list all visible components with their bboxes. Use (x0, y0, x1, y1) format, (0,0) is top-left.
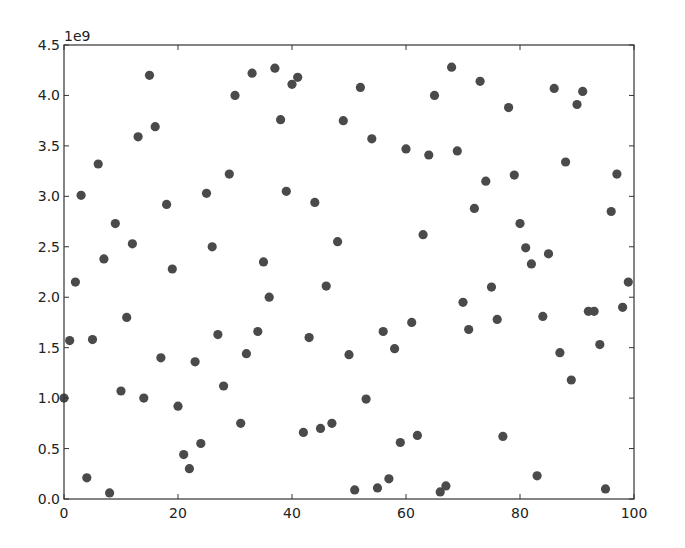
data-point (567, 375, 576, 384)
data-point (282, 187, 291, 196)
data-point (259, 257, 268, 266)
data-point (379, 327, 388, 336)
data-point (618, 303, 627, 312)
y-tick-label: 4.0 (38, 87, 60, 103)
x-tick-label: 40 (283, 505, 301, 521)
data-point (356, 83, 365, 92)
y-tick-label: 2.5 (38, 239, 60, 255)
data-point (151, 122, 160, 131)
data-point (225, 170, 234, 179)
data-point (139, 394, 148, 403)
data-point (510, 171, 519, 180)
data-point (191, 357, 200, 366)
data-point (527, 259, 536, 268)
data-point (116, 386, 125, 395)
data-point (339, 116, 348, 125)
data-point (607, 207, 616, 216)
data-point (504, 103, 513, 112)
data-point (88, 335, 97, 344)
data-point (236, 419, 245, 428)
data-point (413, 431, 422, 440)
data-point (185, 464, 194, 473)
data-point (202, 189, 211, 198)
y-tick-label: 4.5 (38, 37, 60, 53)
x-axis-ticks: 020406080100 (60, 45, 648, 521)
data-point (544, 249, 553, 258)
y-tick-label: 2.0 (38, 289, 60, 305)
data-point (253, 327, 262, 336)
data-point (179, 450, 188, 459)
data-point (441, 481, 450, 490)
data-point (595, 340, 604, 349)
data-point (453, 146, 462, 155)
data-point (624, 278, 633, 287)
data-point (145, 71, 154, 80)
data-point (327, 419, 336, 428)
data-point (419, 230, 428, 239)
data-point (322, 282, 331, 291)
data-point (82, 473, 91, 482)
y-axis-ticks: 0.00.51.01.52.02.53.03.54.04.5 (38, 37, 634, 507)
data-point (538, 312, 547, 321)
data-point (601, 484, 610, 493)
data-point (173, 402, 182, 411)
data-point (310, 198, 319, 207)
scatter-figure: 020406080100 0.00.51.01.52.02.53.03.54.0… (0, 0, 685, 548)
data-point (407, 318, 416, 327)
data-point (362, 395, 371, 404)
data-point (105, 488, 114, 497)
data-point (498, 432, 507, 441)
data-point (464, 325, 473, 334)
data-point (533, 471, 542, 480)
data-point (71, 278, 80, 287)
x-tick-label: 60 (397, 505, 415, 521)
data-point (128, 239, 137, 248)
data-point (515, 219, 524, 228)
y-tick-label: 3.0 (38, 188, 60, 204)
data-point (248, 69, 257, 78)
data-point (156, 353, 165, 362)
data-point (242, 349, 251, 358)
data-point (196, 439, 205, 448)
data-point (344, 350, 353, 359)
data-point (390, 344, 399, 353)
data-point (213, 330, 222, 339)
data-point (350, 485, 359, 494)
data-point (555, 348, 564, 357)
data-point (208, 242, 217, 251)
data-point (590, 307, 599, 316)
data-point (134, 132, 143, 141)
data-point (270, 64, 279, 73)
data-point (430, 91, 439, 100)
data-point (384, 474, 393, 483)
data-point (299, 428, 308, 437)
data-point (77, 191, 86, 200)
data-point (316, 424, 325, 433)
x-tick-label: 100 (621, 505, 648, 521)
data-point (162, 200, 171, 209)
data-point (458, 298, 467, 307)
data-point (521, 243, 530, 252)
data-point (578, 87, 587, 96)
data-point (493, 315, 502, 324)
scatter-plot: 020406080100 0.00.51.01.52.02.53.03.54.0… (0, 0, 685, 548)
data-point (561, 157, 570, 166)
data-point (111, 219, 120, 228)
y-tick-label: 0.5 (38, 441, 60, 457)
data-points (59, 63, 633, 498)
x-tick-label: 0 (60, 505, 69, 521)
data-point (122, 313, 131, 322)
data-point (396, 438, 405, 447)
y-axis-offset-label: 1e9 (64, 28, 90, 44)
data-point (470, 204, 479, 213)
y-tick-label: 3.5 (38, 138, 60, 154)
data-point (476, 77, 485, 86)
y-tick-label: 1.5 (38, 340, 60, 356)
data-point (550, 84, 559, 93)
data-point (293, 73, 302, 82)
data-point (487, 283, 496, 292)
y-tick-label: 0.0 (38, 491, 60, 507)
x-tick-label: 20 (169, 505, 187, 521)
data-point (612, 170, 621, 179)
data-point (447, 63, 456, 72)
